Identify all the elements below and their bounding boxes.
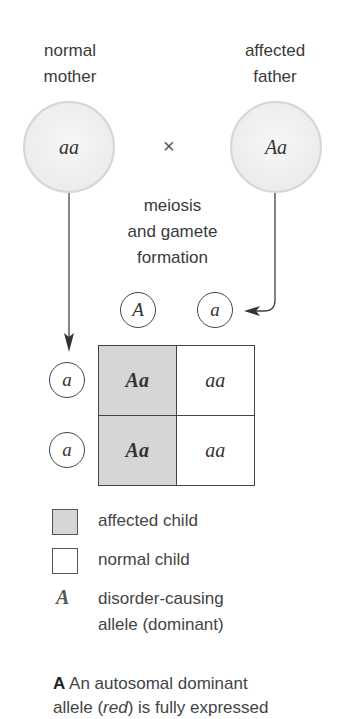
offspring-genotype: Aa <box>126 369 149 392</box>
caption-text-line1: An autosomal dominant <box>69 674 248 693</box>
punnett-cell-normal: aa <box>177 346 255 416</box>
offspring-genotype: aa <box>205 369 225 392</box>
caption-line2-italic: red <box>103 698 128 717</box>
punnett-cell-affected: Aa <box>99 346 177 416</box>
gamete-allele: a <box>62 439 72 461</box>
caption-line2: allele (red) is fully expressed <box>53 696 341 719</box>
legend-allele-line1: disorder-causing <box>98 586 224 612</box>
gamete-allele: a <box>210 299 220 321</box>
offspring-genotype: aa <box>205 439 225 462</box>
punnett-cell-affected: Aa <box>99 416 177 486</box>
caption-line2-pre: allele ( <box>53 698 103 717</box>
legend-allele-line2: allele (dominant) <box>98 612 224 638</box>
legend-normal-swatch <box>52 548 78 574</box>
figure-caption: A An autosomal dominant allele (red) is … <box>53 672 341 719</box>
legend-normal-label: normal child <box>98 547 190 573</box>
father-gamete-A: A <box>120 292 156 328</box>
mother-gamete-1: a <box>49 362 85 398</box>
mother-gamete-2: a <box>49 432 85 468</box>
legend-affected-label: affected child <box>98 508 198 534</box>
legend-affected-swatch <box>52 509 78 535</box>
legend-allele-label: disorder-causing allele (dominant) <box>98 586 224 638</box>
gamete-allele: a <box>62 369 72 391</box>
father-arrow <box>244 193 275 316</box>
offspring-genotype: Aa <box>126 439 149 462</box>
caption-line1: A An autosomal dominant <box>53 672 341 696</box>
caption-panel-letter: A <box>53 674 65 693</box>
father-gamete-a: a <box>197 292 233 328</box>
gamete-allele: A <box>132 299 144 321</box>
caption-line2-post: ) is fully expressed <box>128 698 269 717</box>
legend-allele-symbol: A <box>56 586 69 609</box>
punnett-square: Aa aa Aa aa <box>98 345 255 486</box>
mother-arrow <box>64 193 74 352</box>
punnett-cell-normal: aa <box>177 416 255 486</box>
